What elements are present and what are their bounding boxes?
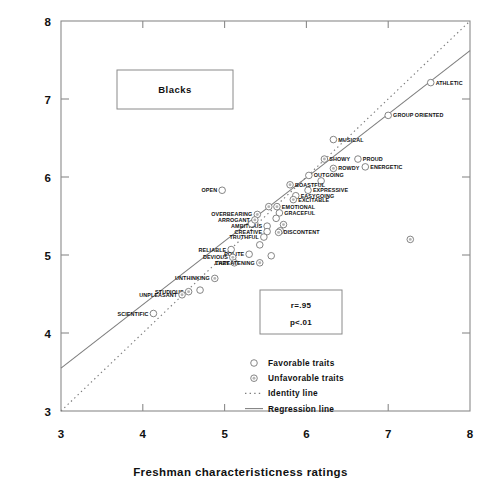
- data-point-fill: [323, 158, 326, 161]
- data-point-fill: [253, 218, 256, 221]
- data-point-favorable: [197, 287, 204, 294]
- data-point-fill: [187, 290, 190, 293]
- plot-canvas: 345678345678ATHLETICGROUP ORIENTEDMUSICA…: [0, 0, 481, 491]
- point-label: RELIABLE: [198, 247, 226, 253]
- data-point-favorable: [246, 251, 253, 258]
- data-point-fill: [213, 277, 216, 280]
- data-point-favorable: [355, 156, 362, 163]
- point-label: OUTGOING: [314, 172, 344, 178]
- legend-marker-unfavorable-fill: [253, 377, 256, 380]
- y-axis-label: Senior characteristicness ratings: [2, 0, 20, 18]
- point-label: TRUTHFUL: [229, 234, 259, 240]
- stat-r: r=.95: [291, 301, 312, 310]
- data-point-favorable: [219, 187, 226, 194]
- data-point-fill: [409, 238, 412, 241]
- y-axis-label-wrap: Senior characteristicness ratings: [4, 0, 22, 430]
- point-label: ARROGANT: [218, 217, 251, 223]
- data-point-fill: [181, 293, 184, 296]
- data-point-fill: [231, 256, 234, 259]
- point-label: SCIENTIFIC: [118, 311, 149, 317]
- data-point-favorable: [427, 79, 434, 86]
- point-label: SHOWY: [329, 156, 350, 162]
- data-point-fill: [256, 213, 259, 216]
- point-label: ENERGETIC: [370, 164, 402, 170]
- legend-label: Identity line: [268, 388, 318, 398]
- data-point-favorable: [362, 164, 369, 171]
- point-label: PROUD: [363, 156, 383, 162]
- y-tick-label: 3: [45, 406, 51, 418]
- data-point-favorable: [330, 136, 337, 143]
- data-point-fill: [292, 198, 295, 201]
- regression-line: [61, 51, 470, 368]
- stat-p: p<.01: [290, 318, 312, 327]
- scatter-plot-figure: Senior characteristicness ratings Freshm…: [0, 0, 481, 491]
- data-point-favorable: [306, 172, 313, 179]
- y-tick-label: 7: [45, 94, 51, 106]
- data-point-favorable: [385, 112, 392, 119]
- point-label: THREATENING: [215, 260, 255, 266]
- data-point-favorable: [268, 252, 275, 259]
- x-tick-label: 8: [467, 428, 474, 440]
- legend-label: Regression line: [268, 404, 334, 414]
- point-label: GROUP ORIENTED: [393, 112, 443, 118]
- y-tick-label: 8: [45, 16, 52, 28]
- stats-box: [260, 290, 342, 334]
- point-label: OPEN: [202, 187, 218, 193]
- legend-label: Favorable traits: [268, 358, 335, 368]
- data-point-fill: [289, 183, 292, 186]
- point-label: MUSICAL: [338, 137, 364, 143]
- x-tick-label: 5: [221, 428, 228, 440]
- data-point-fill: [276, 205, 279, 208]
- legend-label: Unfavorable traits: [268, 373, 344, 383]
- data-point-favorable: [261, 234, 268, 241]
- point-label: BOASTFUL: [295, 182, 326, 188]
- x-tick-label: 3: [58, 428, 64, 440]
- data-point-fill: [332, 167, 335, 170]
- data-point-fill: [258, 261, 261, 264]
- legend-marker-favorable: [251, 360, 258, 367]
- point-label: GRACEFUL: [284, 210, 315, 216]
- data-point-favorable: [150, 310, 157, 317]
- point-label: EXCITABLE: [298, 197, 329, 203]
- plot-frame: [61, 21, 470, 411]
- x-axis-label: Freshman characteristicness ratings: [0, 466, 481, 478]
- data-point-fill: [267, 205, 270, 208]
- y-tick-label: 6: [45, 172, 51, 184]
- point-label: ATHLETIC: [436, 80, 463, 86]
- chart-title: Blacks: [158, 84, 192, 95]
- identity-line: [61, 21, 470, 411]
- point-label: ROWDY: [338, 165, 359, 171]
- y-tick-label: 4: [45, 328, 52, 340]
- data-point-favorable: [273, 215, 280, 222]
- point-label: UNPLEASANT: [139, 292, 177, 298]
- point-label: EMOTIONAL: [282, 204, 316, 210]
- y-tick-label: 5: [45, 250, 52, 262]
- data-point-fill: [282, 223, 285, 226]
- point-label: UNTHINKING: [175, 275, 210, 281]
- x-tick-label: 7: [385, 428, 391, 440]
- x-tick-label: 6: [303, 428, 309, 440]
- data-point-fill: [277, 231, 280, 234]
- x-tick-label: 4: [140, 428, 147, 440]
- data-point-favorable: [256, 242, 263, 249]
- point-label: DISCONTENT: [283, 229, 320, 235]
